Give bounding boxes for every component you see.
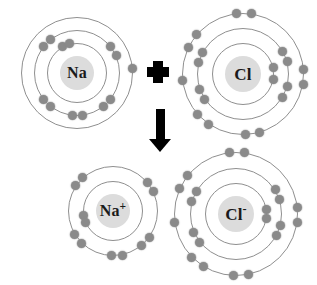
sodium-ion-element-symbol: Na bbox=[100, 202, 120, 219]
chlorine-atom-electron bbox=[278, 47, 287, 56]
chlorine-atom-electron bbox=[283, 57, 292, 66]
chloride-ion: Cl- bbox=[165, 143, 307, 285]
chlorine-atom-electron bbox=[255, 128, 264, 137]
sodium-atom: Na bbox=[12, 8, 142, 138]
chloride-ion-electron bbox=[293, 218, 302, 227]
chloride-ion-electron bbox=[187, 253, 196, 262]
chloride-ion-electron bbox=[262, 214, 271, 223]
sodium-ion-electron bbox=[143, 178, 152, 187]
sodium-atom-nucleus: Na bbox=[60, 56, 94, 90]
chloride-ion-electron bbox=[225, 148, 234, 157]
chlorine-atom-electron bbox=[232, 9, 241, 18]
sodium-ion-electron bbox=[118, 251, 127, 260]
sodium-atom-electron bbox=[112, 51, 121, 60]
chlorine-atom-nucleus: Cl bbox=[225, 56, 261, 92]
plus-sign-vertical-bar bbox=[153, 61, 163, 83]
chloride-ion-electron bbox=[199, 262, 208, 271]
chlorine-atom-label: Cl bbox=[234, 66, 251, 83]
sodium-ion-electron bbox=[149, 187, 158, 196]
sodium-atom-label: Na bbox=[67, 65, 87, 81]
chlorine-atom-electron bbox=[278, 93, 287, 102]
chloride-ion-electron bbox=[192, 187, 201, 196]
chlorine-atom-electron bbox=[184, 43, 193, 52]
sodium-ion-electron bbox=[107, 251, 116, 260]
chlorine-atom-electron bbox=[247, 9, 256, 18]
sodium-ion-nucleus: Na+ bbox=[96, 194, 130, 228]
chloride-ion-charge-symbol: - bbox=[243, 202, 247, 216]
chloride-ion-electron bbox=[195, 238, 204, 247]
chlorine-atom-electron bbox=[204, 120, 213, 129]
down-arrow-head bbox=[149, 139, 171, 152]
chlorine-atom-electron bbox=[283, 82, 292, 91]
chlorine-atom-electron bbox=[178, 76, 187, 85]
sodium-atom-electron bbox=[128, 64, 137, 73]
down-arrow-icon bbox=[149, 109, 171, 152]
chloride-ion-electron bbox=[271, 185, 280, 194]
chloride-ion-electron bbox=[244, 270, 253, 279]
sodium-ion-label: Na+ bbox=[100, 203, 127, 219]
chlorine-atom-electron bbox=[299, 80, 308, 89]
sodium-atom-electron bbox=[39, 42, 48, 51]
chlorine-atom-electron bbox=[269, 63, 278, 72]
sodium-ion-electron bbox=[137, 241, 146, 250]
sodium-ion: Na+ bbox=[59, 157, 167, 265]
chloride-ion-element-symbol: Cl bbox=[225, 205, 242, 224]
chlorine-atom-electron bbox=[241, 130, 250, 139]
chlorine-atom-electron bbox=[269, 75, 278, 84]
sodium-atom-element-symbol: Na bbox=[67, 64, 87, 81]
chlorine-atom-element-symbol: Cl bbox=[234, 65, 251, 84]
chloride-ion-electron bbox=[229, 271, 238, 280]
chloride-ion-nucleus: Cl- bbox=[218, 196, 254, 232]
plus-sign-icon bbox=[147, 61, 169, 83]
sodium-ion-charge-symbol: + bbox=[120, 200, 127, 212]
sodium-ion-electron bbox=[145, 233, 154, 242]
chlorine-atom-electron bbox=[198, 48, 207, 57]
chloride-ion-electron bbox=[276, 221, 285, 230]
chlorine-atom: Cl bbox=[173, 4, 313, 144]
chloride-ion-electron bbox=[183, 171, 192, 180]
chlorine-atom-electron bbox=[192, 30, 201, 39]
chloride-ion-label: Cl- bbox=[225, 206, 247, 223]
chloride-ion-electron bbox=[293, 203, 302, 212]
down-arrow-shaft bbox=[156, 109, 165, 139]
sodium-ion-electron bbox=[81, 218, 90, 227]
sodium-atom-electron bbox=[46, 35, 55, 44]
chlorine-atom-electron bbox=[299, 65, 308, 74]
